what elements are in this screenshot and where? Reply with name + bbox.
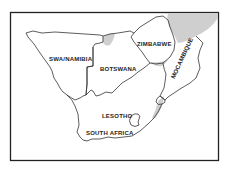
shaded-region-coast [152, 96, 164, 119]
label-zimbabwe: ZIMBABWE [137, 41, 172, 47]
label-lesotho: LESOTHO [102, 113, 132, 119]
label-botswana: BOTSWANA [100, 66, 137, 72]
label-swa-namibia: SWA/NAMIBIA [49, 56, 92, 62]
border-namibia [26, 31, 103, 100]
southern-africa-map [0, 0, 231, 173]
border-zimbabwe [134, 16, 175, 64]
shaded-region-caprivi [103, 33, 115, 46]
label-south-africa: SOUTH AFRICA [86, 130, 134, 136]
